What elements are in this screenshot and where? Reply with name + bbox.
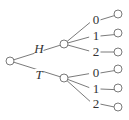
leaf-node-h-0 (114, 10, 122, 18)
node-t (60, 74, 68, 82)
edge-t-1 (68, 79, 90, 87)
leaf-node-h-1 (114, 29, 122, 37)
label-h-1: 1 (93, 28, 100, 43)
label-t-1: 1 (93, 81, 100, 96)
label-t-0: 0 (93, 65, 100, 80)
tree-labels: HT012012 (33, 12, 100, 111)
edge-t-1-leaf (100, 89, 114, 90)
label-h-0: 0 (93, 12, 100, 27)
node-h (60, 40, 68, 48)
leaf-node-t-2 (114, 103, 122, 111)
label-h: H (33, 41, 44, 56)
edge-t-0-leaf (100, 71, 114, 73)
label-h-2: 2 (93, 44, 100, 59)
edge-h-2 (68, 45, 89, 51)
tree-diagram: HT012012 (0, 0, 129, 120)
edge-t-2-leaf (100, 104, 114, 107)
edge-h-0-leaf (100, 16, 114, 20)
edge-t-0 (68, 74, 89, 78)
leaf-node-t-1 (114, 84, 122, 92)
root-node (6, 57, 14, 65)
label-t-2: 2 (93, 96, 100, 111)
edge-h-0 (67, 23, 90, 42)
leaf-node-h-2 (114, 48, 122, 56)
leaf-node-t-0 (114, 65, 122, 73)
label-t: T (35, 67, 43, 82)
tree-nodes (6, 10, 122, 111)
edge-h-1-leaf (100, 35, 114, 36)
